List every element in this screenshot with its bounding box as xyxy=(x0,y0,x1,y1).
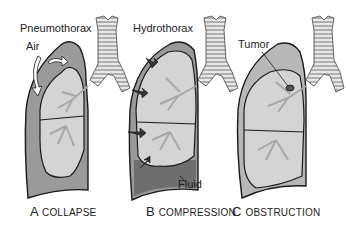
caption-a: A COLLAPSE xyxy=(30,204,96,219)
caption-b: B COMPRESSION xyxy=(146,204,236,219)
lung-diagram xyxy=(0,0,346,228)
caption-text: COLLAPSE xyxy=(42,207,96,218)
trachea-icon xyxy=(90,16,130,92)
caption-text: OBSTRUCTION xyxy=(245,207,320,218)
label-pneumothorax: Pneumothorax xyxy=(20,22,92,34)
trachea-icon xyxy=(198,16,238,92)
trachea-icon xyxy=(306,16,344,92)
caption-c: C OBSTRUCTION xyxy=(232,204,320,219)
label-tumor: Tumor xyxy=(238,38,269,50)
caption-text: COMPRESSION xyxy=(159,207,236,218)
panel-a-collapse xyxy=(25,16,130,198)
caption-letter: A xyxy=(30,204,38,219)
label-fluid: Fluid xyxy=(178,178,202,190)
tumor-icon xyxy=(286,85,294,91)
label-air: Air xyxy=(26,40,39,52)
panel-b-compression xyxy=(128,16,238,200)
caption-letter: B xyxy=(146,204,155,219)
label-hydrothorax: Hydrothorax xyxy=(133,22,193,34)
caption-letter: C xyxy=(232,204,242,219)
lung xyxy=(244,70,304,188)
